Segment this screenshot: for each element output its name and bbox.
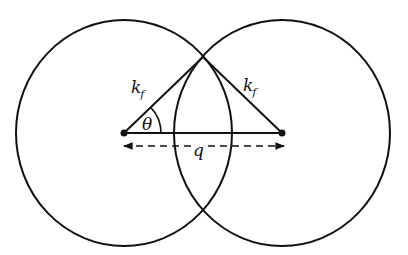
angle-label: θ <box>142 114 152 134</box>
right-radius-label: kf <box>243 75 258 99</box>
right-center-dot <box>279 130 286 137</box>
separation-label: q <box>193 140 204 160</box>
left-radius-label: kf <box>131 77 146 101</box>
diagram-svg: kf kf θ q <box>0 0 408 255</box>
diagram-canvas: kf kf θ q <box>0 0 408 255</box>
right-radius-line <box>203 57 282 133</box>
left-center-dot <box>121 130 128 137</box>
